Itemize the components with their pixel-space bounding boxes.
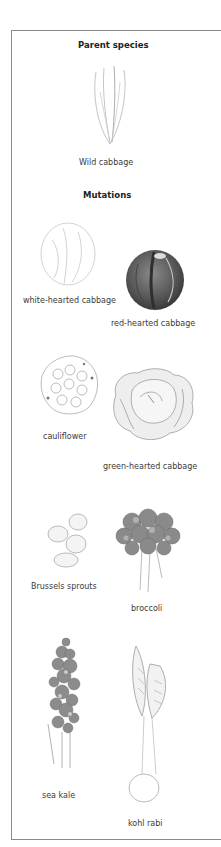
mutations-heading: Mutations <box>83 190 131 200</box>
red-cabbage-label: red-hearted cabbage <box>111 319 195 328</box>
green-cabbage-illustration <box>108 365 198 445</box>
kohl-rabi-illustration <box>126 644 176 806</box>
cauliflower-illustration <box>36 352 102 418</box>
parent-species-heading: Parent species <box>78 40 148 50</box>
green-cabbage-label: green-hearted cabbage <box>103 462 197 471</box>
wild-cabbage-label: Wild cabbage <box>79 158 133 167</box>
brussels-sprouts-label: Brussels sprouts <box>31 582 97 591</box>
sea-kale-illustration <box>40 632 90 772</box>
wild-cabbage-illustration <box>88 62 136 152</box>
red-cabbage-illustration <box>124 248 186 312</box>
brussels-sprouts-illustration <box>44 512 92 572</box>
broccoli-label: broccoli <box>131 604 162 613</box>
white-cabbage-illustration <box>38 220 98 288</box>
cauliflower-label: cauliflower <box>43 432 87 441</box>
white-cabbage-label: white-hearted cabbage <box>23 296 116 305</box>
kohl-rabi-label: kohl rabi <box>128 819 163 828</box>
sea-kale-label: sea kale <box>42 791 75 800</box>
broccoli-illustration <box>112 508 184 594</box>
